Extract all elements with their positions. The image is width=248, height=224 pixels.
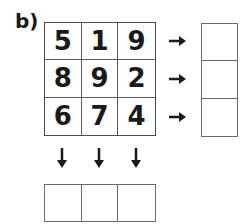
grid-cell: 5 [45, 23, 82, 60]
grid-cell: 7 [82, 98, 119, 135]
arrow-right-icon [169, 35, 186, 47]
grid-cell: 9 [118, 23, 155, 60]
row-answer-box[interactable] [202, 24, 237, 61]
column-answer-box[interactable] [82, 185, 119, 221]
column-answer-boxes [44, 184, 156, 222]
grid-cell: 8 [45, 60, 82, 97]
arrow-right-icon [169, 111, 186, 123]
grid-cell: 9 [82, 60, 119, 97]
grid-cell: 4 [118, 98, 155, 135]
column-answer-box[interactable] [45, 185, 82, 221]
grid-cell: 6 [45, 98, 82, 135]
grid-cell: 2 [118, 60, 155, 97]
arrow-right-icon [169, 73, 186, 85]
exercise-label: b) [15, 9, 38, 33]
grid-cell: 1 [82, 23, 119, 60]
arrow-down-icon [93, 148, 105, 168]
arrow-down-icon [56, 148, 68, 168]
number-grid: 5 1 9 8 9 2 6 7 4 [44, 22, 156, 136]
column-answer-box[interactable] [118, 185, 155, 221]
row-answer-box[interactable] [202, 61, 237, 98]
arrow-down-icon [130, 148, 142, 168]
row-answer-boxes [201, 23, 238, 137]
row-answer-box[interactable] [202, 99, 237, 136]
